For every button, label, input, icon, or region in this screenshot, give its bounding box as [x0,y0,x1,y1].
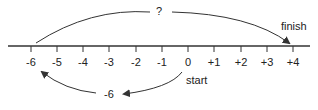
tick-label: -6 [26,56,36,68]
tick-label: -1 [157,56,167,68]
tick-label: -4 [78,56,88,68]
tick-label: +3 [261,56,274,68]
number-line-diagram: -6-5-4-3-2-10+1+2+3+4 ? finish start -6 [0,0,318,110]
bottom-arc-label: -6 [104,88,114,100]
start-label: start [186,74,207,86]
tick-label: +1 [208,56,221,68]
tick-label: 0 [185,56,191,68]
finish-label: finish [281,20,307,32]
top-arc-arrow [36,12,289,43]
tick-label: -3 [104,56,114,68]
bottom-arc-end [42,72,96,93]
tick-label: +2 [235,56,248,68]
bottom-arc-start [124,72,182,94]
tick-label: -2 [131,56,141,68]
tick-label: +4 [287,56,300,68]
tick-group: -6-5-4-3-2-10+1+2+3+4 [26,46,299,68]
tick-label: -5 [52,56,62,68]
top-arc-label: ? [156,5,162,17]
